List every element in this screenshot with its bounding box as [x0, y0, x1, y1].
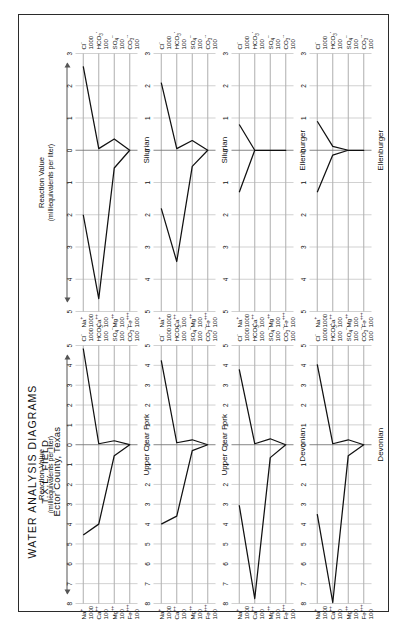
axis-tick-label: 2: [144, 213, 150, 217]
cation-label-ca: Ca++: [328, 606, 335, 619]
cation-scale-fe: 100: [289, 317, 295, 327]
stiff-plot-area: [309, 345, 371, 603]
anion-label-cl: Cl-: [157, 42, 164, 49]
anion-scale-hco3: 100: [102, 39, 108, 49]
stiff-plot-area: [75, 53, 137, 311]
cation-label-fe: Fe+++: [359, 604, 366, 619]
anion-scale-hco3: 100: [102, 331, 108, 341]
cation-label-ca: Ca++: [250, 606, 257, 619]
formation-name: Ellenburger: [375, 90, 384, 210]
anion-scale-so4: 100: [118, 39, 124, 49]
anion-scale-so4: 100: [352, 39, 358, 49]
anion-scale-co3: 100: [367, 39, 373, 49]
rotated-figure-canvas: WATER ANALYSIS DIAGRAMS T.X.L. FIELD Ect…: [19, 17, 386, 611]
axis-tick-label: 3: [66, 51, 72, 55]
stiff-plot-area: [231, 53, 293, 311]
axis-tick-label: 5: [66, 542, 72, 546]
axis-tick-label: 1: [222, 180, 228, 184]
axis-tick-label: 5: [66, 309, 72, 313]
cation-scale-mg: 100: [118, 317, 124, 327]
axis-tick-label: 3: [66, 383, 72, 387]
cation-label-mg: Mg++: [188, 605, 195, 619]
axis-tick-label: 1: [66, 116, 72, 120]
figure-page: WATER ANALYSIS DIAGRAMS T.X.L. FIELD Ect…: [0, 0, 407, 626]
cation-scale-fe: 100: [211, 317, 217, 327]
anion-scale-cl: 1000: [321, 327, 327, 341]
cation-label-ca: Ca++: [172, 314, 179, 327]
cation-scale-fe: 100: [367, 609, 373, 619]
reaction-value-caption: Reaction Value(milliequivalents per lite…: [37, 414, 54, 534]
anion-scale-cl: 1000: [243, 35, 249, 49]
cation-label-na: Na+: [79, 317, 86, 327]
cation-scale-ca: 100: [258, 317, 264, 327]
axis-tick-label: 5: [300, 343, 306, 347]
anion-scale-co3: 100: [289, 331, 295, 341]
anion-scale-cl: 1000: [87, 35, 93, 49]
anion-scale-so4: 100: [118, 331, 124, 341]
cation-label-ca: Ca++: [328, 314, 335, 327]
anion-scale-hco3: 100: [180, 331, 186, 341]
axis-tick-label: 2: [300, 84, 306, 88]
axis-tick-label: 1: [300, 423, 306, 427]
axis-tick-label: 0: [144, 443, 150, 447]
anion-label-cl: Cl-: [235, 42, 242, 49]
axis-tick-label: 2: [66, 84, 72, 88]
anion-scale-so4: 100: [274, 39, 280, 49]
axis-tick-label: 1: [144, 423, 150, 427]
stiff-pattern-polyline: [83, 348, 130, 535]
cation-label-na: Na+: [157, 609, 164, 619]
axis-tick-label: 1: [144, 180, 150, 184]
axis-tick-label: 4: [144, 277, 150, 281]
cation-scale-mg: 100: [274, 317, 280, 327]
cation-scale-na: 1000: [165, 313, 171, 327]
cation-scale-ca: 100: [336, 317, 342, 327]
cation-label-mg: Mg++: [188, 313, 195, 327]
axis-tick-label: 1: [66, 463, 72, 467]
axis-tick-label: 3: [300, 51, 306, 55]
axis-tick-label: 7: [144, 582, 150, 586]
anion-scale-cl: 1000: [87, 327, 93, 341]
cation-scale-ca: 100: [180, 609, 186, 619]
axis-tick-label: 3: [222, 245, 228, 249]
anion-scale-hco3: 100: [336, 39, 342, 49]
anion-scale-hco3: 100: [258, 331, 264, 341]
anion-label-cl: Cl-: [157, 334, 164, 341]
cation-label-mg: Mg++: [110, 605, 117, 619]
axis-tick-label: 0: [300, 443, 306, 447]
axis-tick-label: 3: [144, 383, 150, 387]
axis-tick-label: 0: [66, 148, 72, 152]
axis-tick-label: 2: [144, 482, 150, 486]
axis-tick-label: 1: [222, 116, 228, 120]
cation-label-na: Na+: [157, 317, 164, 327]
cation-scale-ca: 100: [258, 609, 264, 619]
axis-tick-label: 4: [300, 522, 306, 526]
axis-tick-label: 7: [222, 582, 228, 586]
axis-tick-label: 4: [66, 363, 72, 367]
cation-scale-mg: 100: [196, 609, 202, 619]
axis-tick-label: 4: [144, 363, 150, 367]
stiff-pattern-polyline: [161, 82, 208, 261]
anion-scale-cl: 1000: [165, 327, 171, 341]
anion-scale-so4: 100: [274, 331, 280, 341]
axis-tick-label: 1: [144, 116, 150, 120]
axis-tick-label: 5: [144, 309, 150, 313]
anion-scale-co3: 100: [289, 39, 295, 49]
reaction-value-caption: Reaction Value(milliequivalents per lite…: [37, 122, 54, 242]
axis-tick-label: 5: [222, 343, 228, 347]
figure-border: WATER ANALYSIS DIAGRAMS T.X.L. FIELD Ect…: [18, 14, 389, 612]
stiff-plot-area: [153, 53, 215, 311]
cation-scale-na: 1000: [243, 313, 249, 327]
anion-scale-co3: 100: [211, 39, 217, 49]
formation-name: Devonian: [375, 384, 384, 504]
axis-tick-label: 2: [222, 84, 228, 88]
anion-scale-so4: 100: [196, 331, 202, 341]
anion-label-cl: Cl-: [79, 42, 86, 49]
axis-tick-label: 0: [66, 443, 72, 447]
axis-tick-label: 7: [300, 582, 306, 586]
reaction-value-arrow: [66, 355, 67, 593]
axis-tick-label: 3: [66, 245, 72, 249]
anion-scale-co3: 100: [211, 331, 217, 341]
cation-label-na: Na+: [313, 609, 320, 619]
cation-scale-ca: 100: [336, 609, 342, 619]
cation-scale-fe: 100: [133, 609, 139, 619]
